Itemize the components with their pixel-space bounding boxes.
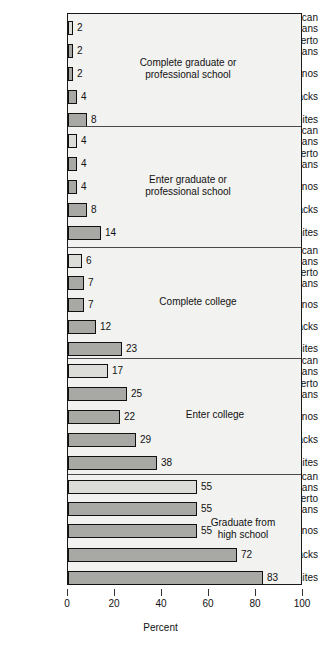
panel-divider bbox=[68, 474, 301, 475]
bar bbox=[68, 364, 108, 378]
bar bbox=[68, 254, 82, 268]
panel-title: Complete college bbox=[128, 296, 268, 308]
bar bbox=[68, 410, 120, 424]
panel-title: Enter college bbox=[145, 409, 285, 421]
bar-value-label: 2 bbox=[77, 21, 83, 35]
panel-title: Graduate fromhigh school bbox=[173, 517, 313, 541]
bar bbox=[68, 433, 136, 447]
panel-title: Complete graduate orprofessional school bbox=[118, 57, 258, 81]
bar bbox=[68, 298, 84, 312]
x-axis-tick bbox=[161, 589, 162, 596]
panel-title-line1: Enter college bbox=[145, 409, 285, 421]
bar bbox=[68, 226, 101, 240]
bar bbox=[68, 342, 122, 356]
bar bbox=[68, 157, 77, 171]
bar bbox=[68, 502, 197, 516]
x-axis-tick bbox=[67, 589, 68, 596]
panel-title-line2: high school bbox=[173, 529, 313, 541]
bar-value-label: 2 bbox=[77, 67, 83, 81]
bar bbox=[68, 180, 77, 194]
x-axis-tick-label: 60 bbox=[193, 598, 223, 610]
bar-value-label: 14 bbox=[105, 226, 116, 240]
bar-value-label: 83 bbox=[267, 571, 278, 585]
panel-divider bbox=[68, 358, 301, 359]
bar-value-label: 4 bbox=[81, 180, 87, 194]
x-axis-tick bbox=[255, 589, 256, 596]
bar bbox=[68, 134, 77, 148]
bar-value-label: 6 bbox=[86, 254, 92, 268]
chart-page: AmericanIndiansPuertoRicansChicanosBlack… bbox=[0, 0, 321, 646]
bar-value-label: 25 bbox=[131, 387, 142, 401]
x-axis-tick-label: 0 bbox=[52, 598, 82, 610]
bar bbox=[68, 548, 237, 562]
panel-title-line1: Complete graduate or bbox=[118, 57, 258, 69]
bar bbox=[68, 276, 84, 290]
bar-value-label: 8 bbox=[91, 113, 97, 127]
bar-value-label: 29 bbox=[140, 433, 151, 447]
bar-value-label: 4 bbox=[81, 90, 87, 104]
panel-title-line2: professional school bbox=[118, 186, 258, 198]
bar bbox=[68, 67, 73, 81]
bar-value-label: 12 bbox=[100, 320, 111, 334]
bar-value-label: 72 bbox=[241, 548, 252, 562]
panel-title-line2: professional school bbox=[118, 69, 258, 81]
x-axis-title: Percent bbox=[0, 622, 321, 633]
bar bbox=[68, 571, 263, 585]
panel-title-line1: Graduate from bbox=[173, 517, 313, 529]
bar bbox=[68, 480, 197, 494]
bar bbox=[68, 21, 73, 35]
bar bbox=[68, 203, 87, 217]
bar-value-label: 7 bbox=[88, 298, 94, 312]
bar-value-label: 7 bbox=[88, 276, 94, 290]
bar-value-label: 55 bbox=[201, 502, 212, 516]
x-axis-tick bbox=[114, 589, 115, 596]
bar-value-label: 8 bbox=[91, 203, 97, 217]
bar-value-label: 23 bbox=[126, 342, 137, 356]
x-axis-tick-label: 20 bbox=[99, 598, 129, 610]
bar bbox=[68, 456, 157, 470]
bar-value-label: 2 bbox=[77, 44, 83, 58]
panel-title-line1: Enter graduate or bbox=[118, 174, 258, 186]
bar-value-label: 22 bbox=[124, 410, 135, 424]
bar bbox=[68, 387, 127, 401]
panel-title-line1: Complete college bbox=[128, 296, 268, 308]
x-axis-tick-label: 80 bbox=[240, 598, 270, 610]
x-axis-tick bbox=[208, 589, 209, 596]
x-axis-tick-label: 100 bbox=[287, 598, 317, 610]
bar bbox=[68, 320, 96, 334]
panel-title: Enter graduate orprofessional school bbox=[118, 174, 258, 198]
x-axis-tick bbox=[302, 589, 303, 596]
bar bbox=[68, 113, 87, 127]
bar bbox=[68, 90, 77, 104]
bar bbox=[68, 44, 73, 58]
bar-value-label: 4 bbox=[81, 134, 87, 148]
bar-value-label: 17 bbox=[112, 364, 123, 378]
panel-divider bbox=[68, 126, 301, 127]
x-axis-tick-label: 40 bbox=[146, 598, 176, 610]
bar-value-label: 4 bbox=[81, 157, 87, 171]
bar-value-label: 55 bbox=[201, 480, 212, 494]
bar-value-label: 38 bbox=[161, 456, 172, 470]
panel-divider bbox=[68, 247, 301, 248]
